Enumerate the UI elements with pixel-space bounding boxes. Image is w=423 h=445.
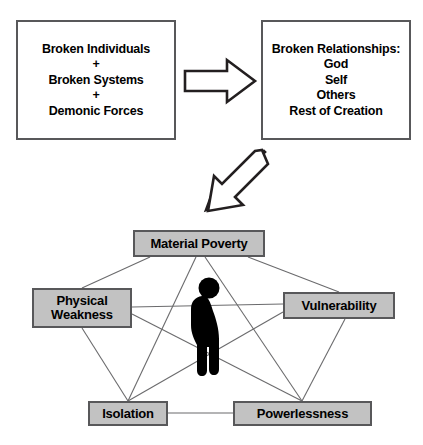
causes-box: Broken Individuals + Broken Systems + De…: [16, 20, 176, 140]
node-isolation-label: Isolation: [102, 407, 154, 421]
node-material-poverty-label: Material Poverty: [150, 237, 247, 251]
node-isolation[interactable]: Isolation: [88, 401, 168, 426]
down-left-arrow-outline-icon: [202, 148, 270, 214]
causes-line-1: Broken Individuals: [42, 43, 150, 56]
diagram-canvas: Broken Individuals + Broken Systems + De…: [0, 0, 423, 445]
hunched-person-silhouette-icon: [178, 277, 230, 379]
effects-box: Broken Relationships: God Self Others Re…: [261, 20, 411, 140]
edge-physical-isolation: [82, 328, 128, 401]
effects-line-creation: Rest of Creation: [289, 105, 382, 118]
causes-plus-2: +: [92, 89, 99, 102]
edge-material-physical: [82, 257, 150, 288]
edge-material-vulnerability: [248, 257, 339, 292]
causes-plus-1: +: [92, 58, 99, 71]
node-vulnerability-label: Vulnerability: [302, 299, 377, 313]
node-material-poverty[interactable]: Material Poverty: [133, 230, 265, 257]
effects-heading: Broken Relationships:: [272, 43, 400, 56]
node-powerlessness-label: Powerlessness: [257, 407, 348, 421]
effects-line-self: Self: [325, 74, 347, 87]
node-vulnerability[interactable]: Vulnerability: [283, 292, 395, 319]
effects-line-god: God: [324, 58, 348, 71]
causes-line-2: Broken Systems: [48, 74, 143, 87]
edge-vulnerability-powerlessness: [302, 319, 345, 401]
node-powerlessness[interactable]: Powerlessness: [233, 401, 372, 426]
right-arrow-icon: [183, 58, 257, 104]
node-physical-weakness-label: Physical Weakness: [51, 294, 113, 321]
node-physical-weakness[interactable]: Physical Weakness: [32, 288, 132, 328]
causes-line-3: Demonic Forces: [49, 105, 143, 118]
effects-line-others: Others: [316, 89, 355, 102]
